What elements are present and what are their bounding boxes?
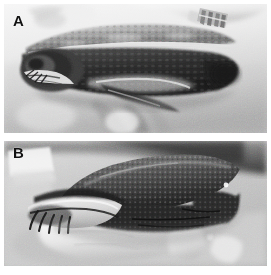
panel-a-photograph	[4, 4, 267, 133]
panel-b-photograph	[4, 141, 267, 266]
panel-label-a: A	[13, 13, 24, 28]
panel-label-b: B	[13, 145, 24, 160]
figure-container: A	[0, 0, 271, 275]
figure-panel-b: B	[4, 141, 267, 266]
figure-panel-a: A	[4, 4, 267, 133]
